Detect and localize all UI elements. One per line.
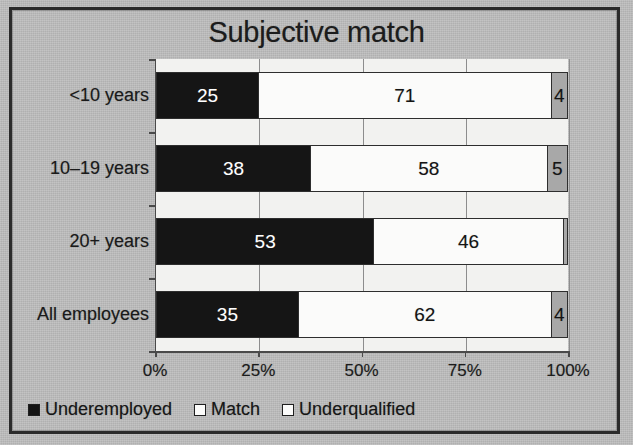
bar-segment[interactable]: 4 xyxy=(552,291,568,338)
bar-segment[interactable]: 71 xyxy=(259,72,552,119)
bar-value-label: 46 xyxy=(458,231,479,253)
bar-value-label: 62 xyxy=(414,304,435,326)
plot-area: 2571438585534635624 xyxy=(155,59,568,351)
page-title: Subjective match xyxy=(0,16,633,49)
legend-swatch-icon xyxy=(194,404,206,416)
bar-value-label: 58 xyxy=(418,158,439,180)
y-axis-tick xyxy=(149,205,155,207)
x-axis-tick-label: 25% xyxy=(223,361,293,381)
bar-value-label: 35 xyxy=(217,304,238,326)
category-label: 10–19 years xyxy=(4,158,149,179)
legend-swatch-icon xyxy=(282,404,294,416)
bar-segment[interactable]: 38 xyxy=(156,145,311,192)
category-axis-labels: <10 years10–19 years20+ yearsAll employe… xyxy=(0,59,149,351)
bar-value-label: 25 xyxy=(197,85,218,107)
bar-row[interactable]: 35624 xyxy=(156,291,568,338)
bar-segment[interactable]: 53 xyxy=(156,218,374,265)
bar-segment[interactable]: 5 xyxy=(548,145,568,192)
x-axis-tick-label: 50% xyxy=(327,361,397,381)
bar-segment[interactable]: 35 xyxy=(156,291,299,338)
x-axis-tick-label: 0% xyxy=(120,361,190,381)
category-label: All employees xyxy=(4,304,149,325)
legend-item[interactable]: Underqualified xyxy=(282,399,415,420)
category-label: 20+ years xyxy=(4,231,149,252)
bar-segment[interactable] xyxy=(564,218,568,265)
bar-row[interactable]: 25714 xyxy=(156,72,568,119)
y-axis-tick xyxy=(149,59,155,61)
x-axis-tick-label: 100% xyxy=(533,361,603,381)
x-axis-tick-label: 75% xyxy=(430,361,500,381)
legend-label: Underemployed xyxy=(45,399,172,420)
bar-value-label: 71 xyxy=(394,85,415,107)
bar-row[interactable]: 38585 xyxy=(156,145,568,192)
bar-value-label: 4 xyxy=(554,304,565,326)
x-axis-tick xyxy=(568,351,570,357)
y-axis-tick xyxy=(149,278,155,280)
x-axis-tick xyxy=(465,351,467,357)
bar-segment[interactable]: 4 xyxy=(552,72,568,119)
bar-value-label: 53 xyxy=(255,231,276,253)
x-axis-tick xyxy=(258,351,260,357)
bar-segment[interactable]: 46 xyxy=(374,218,564,265)
bar-value-label: 38 xyxy=(223,158,244,180)
x-axis-tick xyxy=(362,351,364,357)
legend-label: Match xyxy=(211,399,260,420)
legend-swatch-icon xyxy=(28,404,40,416)
legend-label: Underqualified xyxy=(299,399,415,420)
bar-value-label: 4 xyxy=(554,85,565,107)
bar-segment[interactable]: 62 xyxy=(299,291,552,338)
chart-screenshot: Subjective match 2571438585534635624 <10… xyxy=(0,0,633,445)
bar-row[interactable]: 5346 xyxy=(156,218,568,265)
bar-segment[interactable]: 58 xyxy=(311,145,548,192)
category-label: <10 years xyxy=(4,85,149,106)
bar-series-container: 2571438585534635624 xyxy=(156,59,568,351)
bar-value-label: 5 xyxy=(552,158,563,180)
chart-legend: UnderemployedMatchUnderqualified xyxy=(28,399,415,420)
bar-segment[interactable]: 25 xyxy=(156,72,259,119)
x-axis-tick xyxy=(155,351,157,357)
legend-item[interactable]: Underemployed xyxy=(28,399,172,420)
y-axis-tick xyxy=(149,132,155,134)
legend-item[interactable]: Match xyxy=(194,399,260,420)
